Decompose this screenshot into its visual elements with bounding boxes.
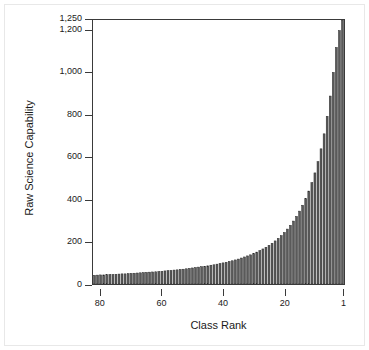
y-axis-tick: 1,200 bbox=[0, 30, 92, 31]
bar bbox=[213, 265, 215, 284]
bar bbox=[139, 273, 141, 284]
bar bbox=[192, 268, 194, 284]
bar bbox=[253, 254, 255, 284]
y-axis-tick-label: 400 bbox=[67, 194, 82, 205]
bar bbox=[247, 256, 249, 284]
bar bbox=[228, 261, 230, 284]
bar bbox=[161, 271, 163, 284]
bar bbox=[289, 225, 291, 284]
bar bbox=[176, 270, 178, 284]
bar bbox=[167, 271, 169, 284]
bar bbox=[100, 275, 102, 284]
bars-series bbox=[93, 20, 344, 284]
bar bbox=[124, 274, 126, 284]
bar bbox=[237, 259, 239, 284]
bar bbox=[234, 260, 236, 284]
y-axis-tick-label: 1,250 bbox=[59, 13, 82, 24]
bar bbox=[329, 96, 331, 284]
y-axis-tick-mark bbox=[85, 200, 92, 201]
x-axis-tick-label: 1 bbox=[329, 298, 357, 309]
bar bbox=[179, 269, 181, 284]
bar bbox=[103, 275, 105, 284]
y-axis-tick: 800 bbox=[0, 115, 92, 116]
y-axis: 02004006008001,0001,2001,250 bbox=[0, 0, 92, 350]
y-axis-tick-label: 1,000 bbox=[59, 66, 82, 77]
x-axis-tick-mark bbox=[285, 289, 286, 296]
bar bbox=[308, 191, 310, 284]
y-axis-tick-mark bbox=[85, 115, 92, 116]
y-axis-title: Raw Science Capability bbox=[23, 58, 35, 258]
bar bbox=[173, 270, 175, 284]
y-axis-tick-label: 1,200 bbox=[59, 24, 82, 35]
x-axis-tick-mark bbox=[161, 289, 162, 296]
y-axis-tick-label: 0 bbox=[77, 279, 82, 290]
bar bbox=[332, 72, 334, 284]
bar bbox=[185, 269, 187, 284]
bar bbox=[216, 264, 218, 284]
bar bbox=[244, 257, 246, 284]
y-axis-tick-mark bbox=[85, 72, 92, 73]
x-axis-title: Class Rank bbox=[92, 319, 345, 331]
bar bbox=[170, 270, 172, 284]
bar bbox=[201, 267, 203, 284]
bar bbox=[155, 272, 157, 284]
bar bbox=[286, 229, 288, 284]
bar bbox=[314, 173, 316, 284]
bar bbox=[231, 261, 233, 284]
bar bbox=[210, 265, 212, 284]
bar bbox=[326, 116, 328, 284]
bar bbox=[323, 134, 325, 284]
bar bbox=[302, 205, 304, 284]
bar bbox=[182, 269, 184, 284]
bar bbox=[188, 268, 190, 284]
bar bbox=[342, 20, 344, 284]
bar bbox=[97, 275, 99, 284]
x-axis-tick-mark bbox=[100, 289, 101, 296]
y-axis-tick: 1,250 bbox=[0, 19, 92, 20]
bar bbox=[143, 273, 145, 284]
bar bbox=[204, 266, 206, 284]
bar bbox=[256, 252, 258, 284]
bar bbox=[149, 272, 151, 284]
y-axis-tick-mark bbox=[85, 19, 92, 20]
bar bbox=[225, 262, 227, 284]
bar bbox=[207, 266, 209, 284]
y-axis-tick-mark bbox=[85, 285, 92, 286]
bar bbox=[311, 183, 313, 284]
bar bbox=[317, 162, 319, 284]
bar bbox=[305, 199, 307, 284]
bar bbox=[219, 264, 221, 284]
bar bbox=[94, 275, 96, 284]
bar bbox=[280, 236, 282, 284]
bar bbox=[130, 273, 132, 284]
bar bbox=[127, 274, 129, 284]
y-axis-tick-mark bbox=[85, 157, 92, 158]
bar bbox=[146, 272, 148, 284]
plot-area bbox=[92, 19, 345, 285]
chart-figure: 02004006008001,0001,2001,250 806040201 C… bbox=[0, 0, 369, 350]
y-axis-tick: 200 bbox=[0, 242, 92, 243]
y-axis-tick-label: 800 bbox=[67, 109, 82, 120]
bar bbox=[299, 211, 301, 284]
bar bbox=[195, 268, 197, 284]
x-axis-tick-mark bbox=[343, 289, 344, 296]
x-axis-tick-label: 60 bbox=[147, 298, 175, 309]
y-axis-tick-mark bbox=[85, 242, 92, 243]
bar bbox=[320, 149, 322, 284]
y-axis-tick-label: 200 bbox=[67, 236, 82, 247]
x-axis-tick-label: 20 bbox=[271, 298, 299, 309]
x-axis-tick-label: 40 bbox=[209, 298, 237, 309]
bar bbox=[293, 221, 295, 284]
y-axis-tick: 600 bbox=[0, 157, 92, 158]
bar bbox=[133, 273, 135, 284]
bar bbox=[271, 243, 273, 284]
bar bbox=[274, 241, 276, 284]
y-axis-tick-mark bbox=[85, 30, 92, 31]
bar bbox=[158, 272, 160, 284]
bar bbox=[277, 238, 279, 284]
bar bbox=[335, 47, 337, 284]
bar bbox=[136, 273, 138, 284]
bar bbox=[259, 251, 261, 284]
bar bbox=[118, 274, 120, 284]
bar bbox=[112, 274, 114, 284]
